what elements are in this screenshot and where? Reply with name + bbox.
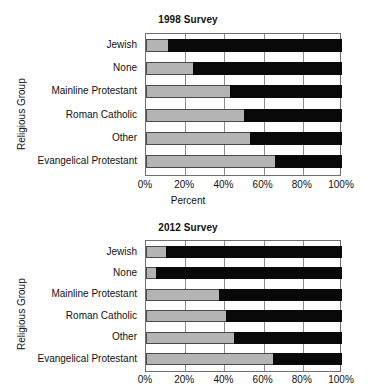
bar-segment-dark bbox=[273, 353, 342, 365]
bar-segment-dark bbox=[156, 267, 342, 279]
y-tick-label-jewish: Jewish bbox=[106, 246, 137, 257]
gridline bbox=[185, 241, 186, 371]
chart-title-2012: 2012 Survey bbox=[0, 222, 376, 233]
x-tick-label-0pct: 0% bbox=[138, 179, 152, 190]
bar-segment-light bbox=[146, 267, 156, 279]
chart-title-1998: 1998 Survey bbox=[0, 14, 376, 25]
y-tick-label-other: Other bbox=[112, 132, 137, 143]
bar-row bbox=[146, 155, 340, 168]
x-tick-label-20pct: 20% bbox=[174, 374, 194, 385]
bar-segment-light bbox=[146, 132, 250, 145]
bar-segment-dark bbox=[234, 332, 342, 344]
bar-segment-dark bbox=[230, 85, 342, 98]
bar-row bbox=[146, 310, 340, 322]
y-tick-label-mainline-protestant: Mainline Protestant bbox=[51, 288, 137, 299]
x-tick-label-40pct: 40% bbox=[213, 179, 233, 190]
chart-1998-survey: 1998 Survey Religious Group JewishNoneMa… bbox=[0, 0, 376, 204]
gridline bbox=[264, 241, 265, 371]
bar-row bbox=[146, 85, 340, 98]
y-axis-title-1998: Religious Group bbox=[16, 78, 27, 150]
bar-segment-dark bbox=[250, 132, 342, 145]
gridline bbox=[185, 34, 186, 175]
y-tick-label-roman-catholic: Roman Catholic bbox=[66, 109, 137, 120]
bar-segment-light bbox=[146, 310, 226, 322]
bar-segment-dark bbox=[244, 109, 342, 122]
gridline bbox=[224, 241, 225, 371]
bar-row bbox=[146, 62, 340, 75]
x-axis-tick-labels-2012: 0%20%40%60%80%100% bbox=[0, 374, 376, 386]
gridline bbox=[303, 241, 304, 371]
x-tick-label-20pct: 20% bbox=[174, 179, 194, 190]
x-tick-label-60pct: 60% bbox=[253, 374, 273, 385]
bar-segment-dark bbox=[219, 289, 342, 301]
bar-row bbox=[146, 332, 340, 344]
gridline bbox=[264, 34, 265, 175]
bar-segment-dark bbox=[168, 39, 342, 52]
bar-row bbox=[146, 353, 340, 365]
bar-segment-light bbox=[146, 289, 219, 301]
y-tick-label-none: None bbox=[113, 267, 137, 278]
bar-row bbox=[146, 289, 340, 301]
bar-segment-light bbox=[146, 109, 244, 122]
bar-row bbox=[146, 109, 340, 122]
plot-area-2012 bbox=[145, 240, 341, 372]
bar-row bbox=[146, 246, 340, 258]
gridline bbox=[224, 34, 225, 175]
bar-row bbox=[146, 39, 340, 52]
bar-row bbox=[146, 132, 340, 145]
y-tick-label-evangelical-protestant: Evangelical Protestant bbox=[37, 155, 137, 166]
y-tick-label-mainline-protestant: Mainline Protestant bbox=[51, 85, 137, 96]
y-tick-label-none: None bbox=[113, 62, 137, 73]
bar-segment-light bbox=[146, 85, 230, 98]
bar-segment-light bbox=[146, 332, 234, 344]
x-tick-label-100pct: 100% bbox=[328, 374, 354, 385]
bar-segment-light bbox=[146, 62, 193, 75]
chart-2012-survey: 2012 Survey Religious Group JewishNoneMa… bbox=[0, 204, 376, 389]
plot-area-1998 bbox=[145, 33, 341, 176]
x-tick-label-0pct: 0% bbox=[138, 374, 152, 385]
bar-segment-light bbox=[146, 39, 168, 52]
bar-row bbox=[146, 267, 340, 279]
x-axis-tick-labels-1998: 0%20%40%60%80%100% bbox=[0, 179, 376, 191]
bar-segment-dark bbox=[193, 62, 342, 75]
bar-segment-dark bbox=[226, 310, 342, 322]
y-axis-title-2012: Religious Group bbox=[16, 278, 27, 350]
x-tick-label-100pct: 100% bbox=[328, 179, 354, 190]
gridline bbox=[303, 34, 304, 175]
x-tick-label-40pct: 40% bbox=[213, 374, 233, 385]
bar-segment-light bbox=[146, 353, 273, 365]
bar-segment-light bbox=[146, 246, 166, 258]
x-tick-label-80pct: 80% bbox=[292, 179, 312, 190]
x-tick-label-80pct: 80% bbox=[292, 374, 312, 385]
y-tick-label-roman-catholic: Roman Catholic bbox=[66, 310, 137, 321]
bar-segment-light bbox=[146, 155, 275, 168]
y-tick-label-jewish: Jewish bbox=[106, 39, 137, 50]
y-tick-label-evangelical-protestant: Evangelical Protestant bbox=[37, 353, 137, 364]
y-tick-label-other: Other bbox=[112, 331, 137, 342]
bar-segment-dark bbox=[166, 246, 342, 258]
x-tick-label-60pct: 60% bbox=[253, 179, 273, 190]
bar-segment-dark bbox=[275, 155, 342, 168]
